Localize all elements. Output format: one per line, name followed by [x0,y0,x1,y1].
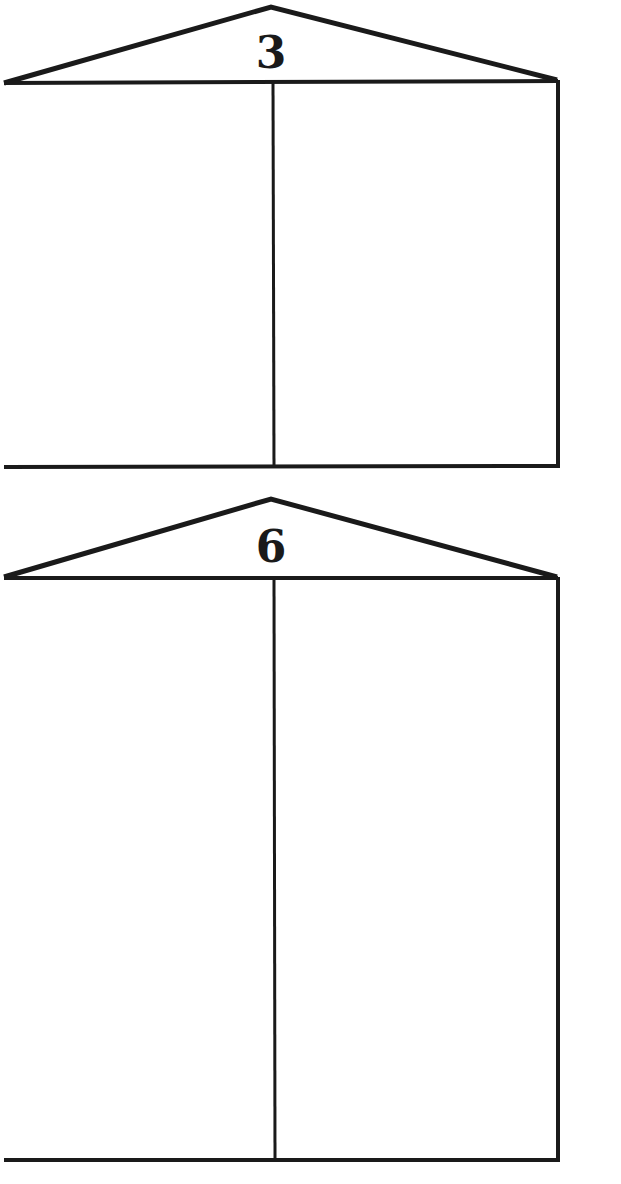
house-1-right-cell[interactable] [276,84,556,464]
house-1-roof-number: 3 [256,27,287,78]
house-2-right-cell[interactable] [277,581,556,1157]
house-2-left-cell[interactable] [6,581,272,1157]
house-2-divider [274,578,275,1160]
house-2-roof-number: 6 [256,521,287,572]
house-1-divider [273,83,274,467]
house-1-left-cell[interactable] [6,86,271,464]
house-1-roof-base [4,81,558,83]
house-2: 6 [4,499,558,1160]
house-1: 3 [4,7,558,467]
worksheet-canvas: 3 6 [0,0,621,1184]
